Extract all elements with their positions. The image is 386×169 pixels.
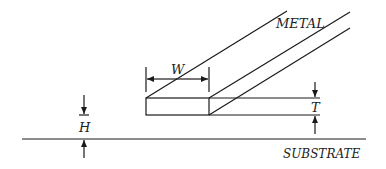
metal-strip-front-face — [146, 98, 209, 115]
metal-left-top-diagonal — [146, 11, 287, 98]
height-label: H — [78, 120, 91, 135]
width-label: W — [171, 62, 186, 77]
metal-right-bottom-diagonal — [209, 28, 350, 115]
thickness-label: T — [311, 100, 321, 115]
microstrip-diagram: METAL W T H SUBSTRATE — [0, 0, 386, 169]
metal-label: METAL — [275, 16, 325, 31]
substrate-label: SUBSTRATE — [283, 147, 360, 161]
